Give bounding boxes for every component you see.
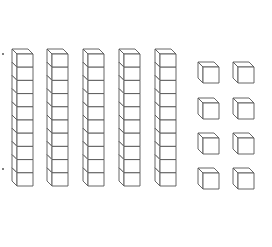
blocks-drawing <box>0 0 272 247</box>
tens-rod <box>83 49 104 186</box>
tens-rod <box>155 49 176 186</box>
base-ten-blocks-diagram <box>0 0 272 247</box>
unit-cube <box>198 168 219 189</box>
tens-rod <box>47 49 68 186</box>
unit-cube <box>233 62 254 83</box>
unit-cube <box>233 98 254 119</box>
unit-cube <box>198 62 219 83</box>
tens-rod <box>12 49 33 186</box>
unit-cube <box>198 98 219 119</box>
unit-cube <box>198 133 219 154</box>
tens-rod <box>119 49 140 186</box>
unit-cube <box>233 133 254 154</box>
marker-dot <box>2 53 4 55</box>
marker-dot <box>2 168 4 170</box>
unit-cube <box>233 168 254 189</box>
